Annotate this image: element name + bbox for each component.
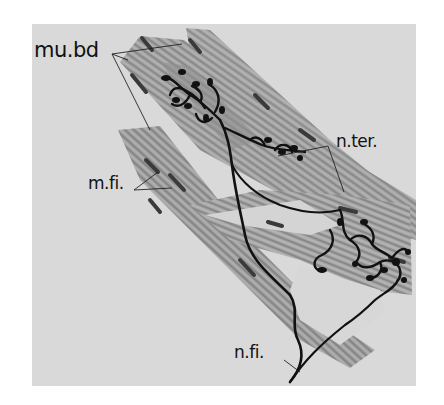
histology-figure: mu.bd m.fi. n.ter. n.fi. [0,0,444,405]
label-muscle-bundle: mu.bd [34,40,99,61]
label-nerve-terminal: n.ter. [336,133,377,150]
label-nerve-fibre: n.fi. [234,344,264,361]
label-muscle-fibre: m.fi. [88,175,124,192]
